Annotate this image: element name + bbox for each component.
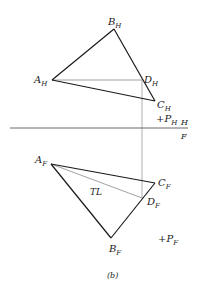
top-view-triangle — [52, 29, 155, 101]
figure-caption: (b) — [107, 271, 118, 280]
label-d-front: DF — [146, 196, 161, 210]
label-a-top: AH — [33, 74, 48, 88]
edge-bc-front — [111, 183, 155, 238]
label-b-top: BH — [107, 16, 122, 30]
true-length-label: TL — [90, 187, 102, 197]
label-point-p-front: +PF — [158, 233, 179, 247]
edge-ab-top — [52, 29, 114, 80]
descriptive-geometry-diagram: BH AH DH CH +PH H F AF CF DF BF TL +PF (… — [0, 0, 209, 292]
edge-bc-top — [114, 29, 155, 101]
edge-ac-front — [51, 164, 155, 183]
label-d-top: DH — [143, 74, 159, 88]
label-c-top: CH — [157, 99, 172, 113]
edge-ac-top — [52, 80, 155, 101]
label-c-front: CF — [158, 177, 172, 191]
front-view-triangle — [51, 164, 155, 238]
label-b-front: BF — [108, 243, 122, 257]
label-a-front: AF — [34, 154, 48, 168]
fold-label-h: H — [180, 118, 189, 127]
label-point-p-top: +PH — [156, 113, 178, 127]
fold-label-f: F — [180, 132, 187, 141]
